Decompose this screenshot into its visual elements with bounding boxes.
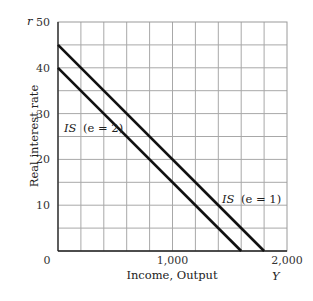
y-tick-label: 40 xyxy=(36,62,50,75)
annotation-is-e1-main: IS xyxy=(221,192,235,206)
annotation-is-e1: IS (e = 1) xyxy=(221,192,281,206)
y-tick-label: 10 xyxy=(36,199,50,212)
grid-lines xyxy=(58,22,287,251)
x-tick-label: 0 xyxy=(44,254,51,267)
annotation-is-e2: IS (e = 2) xyxy=(63,121,123,135)
x-axis-symbol: Y xyxy=(272,269,281,283)
y-axis-symbol: r xyxy=(27,14,34,28)
series-line xyxy=(58,45,264,251)
y-tick-label: 50 xyxy=(36,16,50,29)
annotation-is-e2-paren: (e = 2) xyxy=(83,121,123,135)
series-lines xyxy=(58,45,264,251)
annotation-is-e1-paren: (e = 1) xyxy=(241,192,281,206)
y-axis-label: Real interest rate xyxy=(27,85,41,188)
x-tick-label: 1,000 xyxy=(157,254,189,267)
x-axis-label: Income, Output xyxy=(126,268,218,282)
annotation-is-e2-main: IS xyxy=(63,121,77,135)
is-curve-chart: 1020304050 01,0002,000 r Real interest r… xyxy=(0,0,313,301)
x-tick-labels: 01,0002,000 xyxy=(44,254,303,267)
x-tick-label: 2,000 xyxy=(271,254,303,267)
